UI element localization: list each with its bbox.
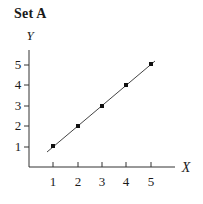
x-tick-label: 1 <box>50 174 57 189</box>
data-point <box>149 62 153 66</box>
data-point <box>100 104 104 108</box>
y-tick-label: 5 <box>15 57 22 72</box>
scatter-plot: Y X 1 2 3 4 5 1 2 3 4 5 <box>0 0 203 204</box>
data-point <box>124 83 128 87</box>
y-tick-label: 1 <box>15 139 22 154</box>
x-tick-label: 4 <box>123 174 130 189</box>
y-tick-label: 3 <box>15 98 22 113</box>
y-axis-label: Y <box>26 28 35 43</box>
x-tick-label: 5 <box>148 174 155 189</box>
x-tick-label: 2 <box>75 174 82 189</box>
data-point <box>51 144 55 148</box>
x-axis-label: X <box>181 160 191 175</box>
x-ticks: 1 2 3 4 5 <box>50 162 155 189</box>
y-tick-label: 4 <box>15 77 22 92</box>
y-tick-label: 2 <box>15 118 22 133</box>
x-tick-label: 3 <box>99 174 106 189</box>
data-point <box>76 124 80 128</box>
y-ticks: 1 2 3 4 5 <box>15 57 29 154</box>
